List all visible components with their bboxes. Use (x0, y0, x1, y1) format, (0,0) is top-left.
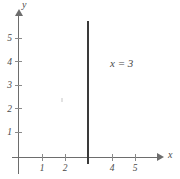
y-axis-tick-label: 2 (0, 104, 12, 114)
curve-equation-label: x = 3 (110, 57, 133, 69)
x-axis-tick-label: 4 (106, 163, 118, 173)
y-axis-tick (15, 61, 22, 62)
x-axis-tick-label: 2 (59, 163, 71, 173)
y-axis-tick (15, 108, 22, 109)
x-axis-label: x (168, 149, 172, 160)
graph-figure: x y 1245 12345 x = 3 (0, 0, 180, 179)
x-axis-tick (112, 154, 113, 161)
x-axis-tick-label: 5 (129, 163, 141, 173)
x-axis-tick-label: 1 (36, 163, 48, 173)
y-axis-label: y (22, 0, 26, 10)
y-axis-tick-label: 1 (0, 127, 12, 137)
y-axis-tick-label: 5 (0, 33, 12, 43)
x-axis-tick (135, 154, 136, 161)
y-axis-arrow-icon (15, 9, 23, 16)
y-axis-tick (15, 85, 22, 86)
y-axis-tick-label: 3 (0, 80, 12, 90)
x-axis-tick (65, 154, 66, 161)
x-axis-tick (42, 154, 43, 161)
y-axis-tick (15, 132, 22, 133)
vertical-line-x-equals-3 (87, 21, 89, 164)
y-axis-tick-label: 4 (0, 57, 12, 67)
x-axis-arrow-icon (157, 153, 164, 161)
faint-artifact-mark (61, 98, 63, 102)
x-axis-line (12, 157, 159, 158)
y-axis-tick (15, 38, 22, 39)
